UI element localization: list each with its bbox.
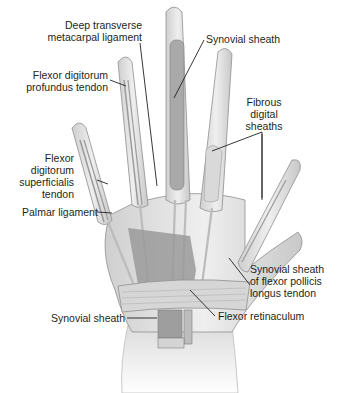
label-line: superficialis [14,176,74,188]
label-line: Deep transverse [42,19,142,31]
label-line: profundus tendon [22,81,108,93]
label-synovial-sheath-flexor-pollicis-longus: Synovial sheath of flexor pollicis longu… [250,263,324,299]
label-flexor-digitorum-profundus-tendon: Flexor digitorum profundus tendon [22,69,108,93]
label-synovial-sheath-bottom: Synovial sheath [51,312,125,324]
label-synovial-sheath-top: Synovial sheath [206,33,280,45]
label-line: tendon [14,188,74,200]
label-line: Fibrous [242,96,286,108]
label-line: Flexor digitorum [22,69,108,81]
label-flexor-digitorum-superficialis-tendon: Flexor digitorum superficialis tendon [14,152,74,200]
label-line: Synovial sheath [250,263,324,275]
label-line: longus tendon [250,287,324,299]
label-fibrous-digital-sheaths: Fibrous digital sheaths [242,96,286,132]
ring-finger [118,57,148,208]
label-line: sheaths [242,120,286,132]
label-palmar-ligament: Palmar ligament [22,206,98,218]
label-line: Flexor [14,152,74,164]
label-line: metacarpal ligament [42,31,142,43]
middle-finger-synovial-sheath [170,40,184,190]
label-deep-transverse-metacarpal-ligament: Deep transverse metacarpal ligament [42,19,142,43]
label-line: digitorum [14,164,74,176]
label-line: digital [242,108,286,120]
label-flexor-retinaculum: Flexor retinaculum [218,310,304,322]
carpal-synovial-sheath [158,310,182,338]
label-line: of flexor pollicis [250,275,324,287]
